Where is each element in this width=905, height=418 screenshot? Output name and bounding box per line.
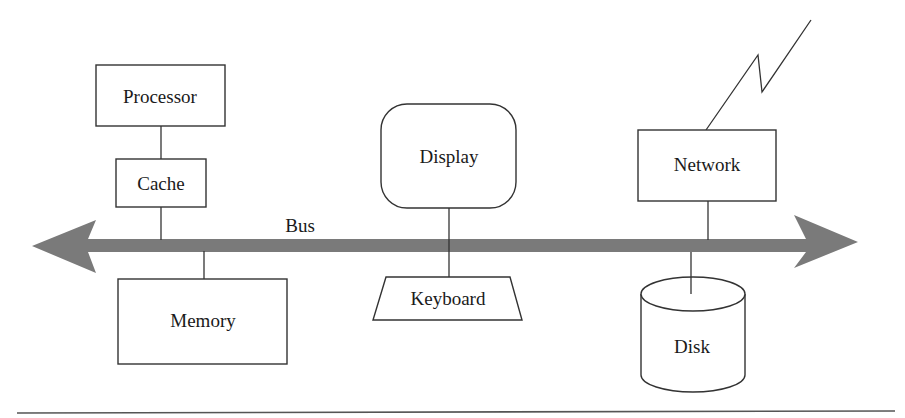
disk-label: Disk (674, 336, 710, 357)
bus-arrow (32, 215, 858, 273)
bus-label: Bus (285, 215, 315, 236)
disk-node: Disk (641, 277, 745, 392)
network-node: Network (638, 130, 776, 201)
keyboard-node: Keyboard (373, 277, 522, 320)
network-label: Network (674, 154, 741, 175)
display-node: Display (381, 104, 516, 208)
processor-node: Processor (96, 65, 225, 126)
diagram-canvas: Bus Processor Cache Memory Display Keybo… (0, 0, 905, 418)
cache-label: Cache (137, 173, 184, 194)
memory-label: Memory (170, 310, 236, 331)
display-label: Display (419, 146, 479, 167)
memory-node: Memory (118, 279, 287, 364)
system-diagram: Bus Processor Cache Memory Display Keybo… (0, 0, 905, 418)
keyboard-label: Keyboard (411, 288, 486, 309)
bottom-rule (17, 411, 895, 413)
cache-node: Cache (116, 159, 206, 207)
processor-label: Processor (123, 86, 198, 107)
lightning-bolt-icon (706, 20, 811, 130)
